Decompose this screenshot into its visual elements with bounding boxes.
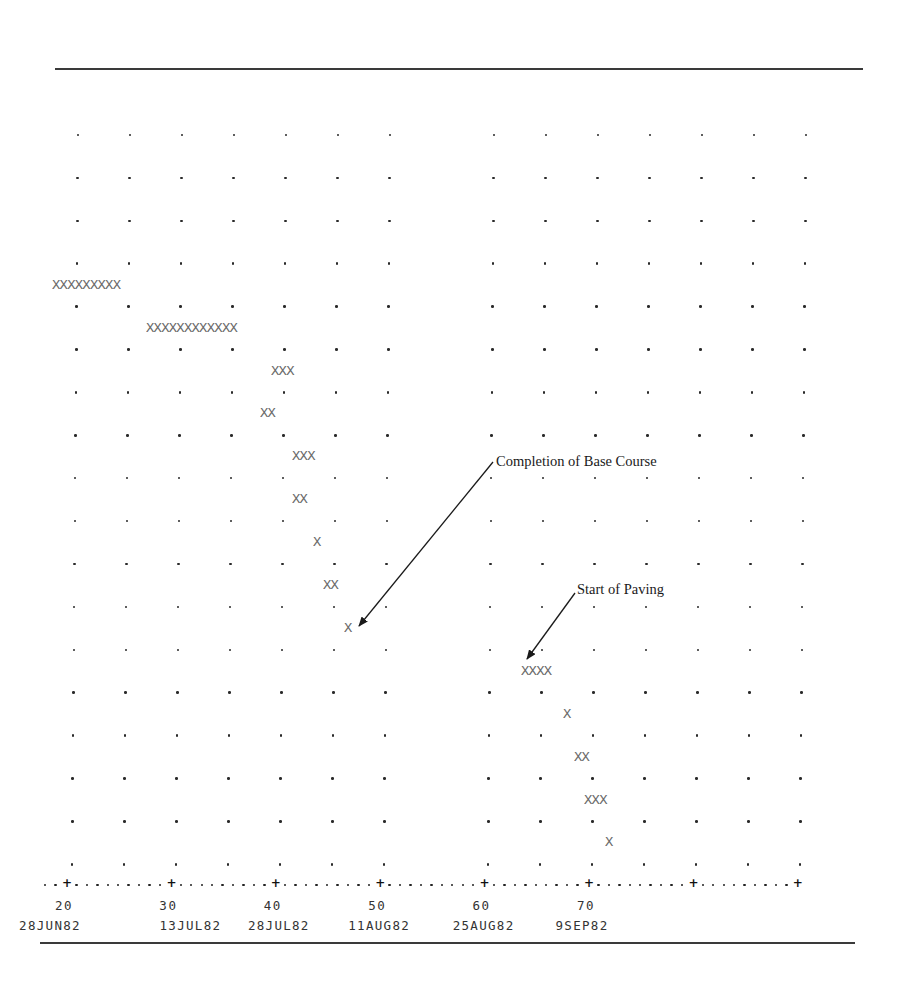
annotation-base-course: Completion of Base Course	[496, 453, 657, 469]
paving-arrow	[527, 593, 575, 659]
chart-page: XXXXXXXXXXXXXXXXXXXXXXXXXXXXXXXXXXXXXXXX…	[0, 0, 902, 987]
annotation-arrows	[0, 0, 902, 987]
base-course-arrow	[359, 462, 493, 626]
annotation-start-of-paving: Start of Paving	[577, 581, 664, 597]
